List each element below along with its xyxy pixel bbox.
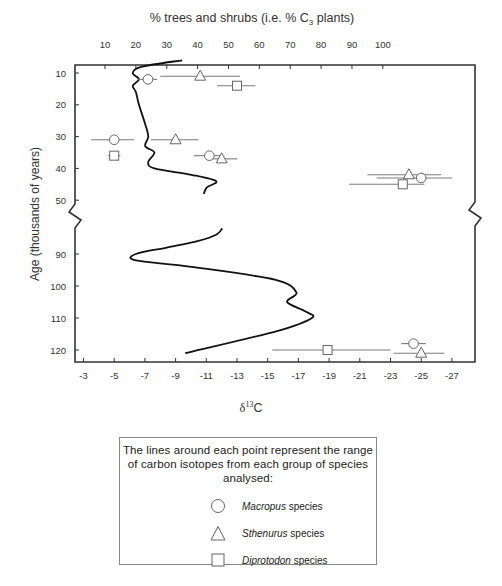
tree-shrub-curve bbox=[130, 60, 313, 353]
svg-text:-5: -5 bbox=[110, 370, 118, 381]
svg-text:10: 10 bbox=[100, 39, 111, 50]
legend-item-macropus: Macropus species bbox=[210, 496, 323, 516]
svg-text:-23: -23 bbox=[384, 370, 398, 381]
svg-text:70: 70 bbox=[285, 39, 296, 50]
svg-text:40: 40 bbox=[192, 39, 203, 50]
svg-text:-21: -21 bbox=[353, 370, 367, 381]
svg-text:20: 20 bbox=[55, 99, 66, 110]
svg-text:30: 30 bbox=[55, 131, 66, 142]
legend-note: The lines around each point represent th… bbox=[120, 443, 376, 485]
svg-text:60: 60 bbox=[254, 39, 265, 50]
svg-text:Age (thousands of years): Age (thousands of years) bbox=[28, 147, 42, 281]
svg-text:100: 100 bbox=[50, 281, 66, 292]
svg-text:50: 50 bbox=[55, 195, 66, 206]
svg-text:-25: -25 bbox=[414, 370, 428, 381]
svg-text:40: 40 bbox=[55, 163, 66, 174]
svg-text:-9: -9 bbox=[171, 370, 179, 381]
svg-text:120: 120 bbox=[50, 345, 66, 356]
legend-item-sthenurus: Sthenurus species bbox=[210, 523, 324, 543]
svg-text:30: 30 bbox=[161, 39, 172, 50]
legend: The lines around each point represent th… bbox=[119, 437, 377, 565]
circle-icon bbox=[210, 498, 226, 514]
svg-text:110: 110 bbox=[51, 313, 66, 324]
y-axis-label: Age (thousands of years) bbox=[28, 147, 42, 281]
svg-text:-3: -3 bbox=[79, 370, 87, 381]
svg-text:-19: -19 bbox=[322, 370, 336, 381]
svg-text:10: 10 bbox=[55, 68, 66, 79]
svg-text:-15: -15 bbox=[261, 370, 275, 381]
legend-item-diprotodon: Diprotodon species bbox=[210, 550, 328, 570]
square-icon bbox=[210, 552, 226, 568]
svg-text:-27: -27 bbox=[445, 370, 459, 381]
legend-label: Sthenurus species bbox=[242, 528, 324, 539]
top-axis-title: % trees and shrubs (i.e. % C3 plants) bbox=[150, 11, 355, 27]
svg-text:20: 20 bbox=[131, 39, 142, 50]
data-markers bbox=[109, 70, 426, 357]
plot-frame bbox=[69, 65, 481, 362]
svg-text:50: 50 bbox=[223, 39, 234, 50]
svg-text:-17: -17 bbox=[292, 370, 306, 381]
svg-text:% trees and shrubs (i.e. % C3: % trees and shrubs (i.e. % C3 plants) bbox=[150, 11, 355, 27]
svg-text:δ13C: δ13C bbox=[240, 400, 263, 415]
isotope-range-lines bbox=[91, 76, 452, 353]
svg-text:-7: -7 bbox=[141, 370, 149, 381]
svg-text:-11: -11 bbox=[200, 370, 213, 381]
svg-text:-13: -13 bbox=[230, 370, 244, 381]
svg-text:90: 90 bbox=[55, 249, 66, 260]
isotope-chart: % trees and shrubs (i.e. % C3 plants) 10… bbox=[0, 0, 502, 430]
legend-label: Macropus species bbox=[242, 501, 323, 512]
svg-text:80: 80 bbox=[316, 39, 327, 50]
triangle-icon bbox=[210, 525, 226, 541]
svg-text:90: 90 bbox=[347, 39, 358, 50]
svg-text:100: 100 bbox=[375, 39, 391, 50]
legend-label: Diprotodon species bbox=[242, 555, 328, 566]
x-axis-label: δ13C bbox=[240, 400, 263, 415]
